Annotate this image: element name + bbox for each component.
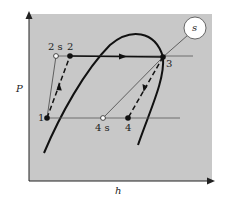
point-2-label: 2 xyxy=(67,41,73,52)
condenser-process-line xyxy=(70,56,163,57)
point-2s-label: 2 s xyxy=(48,41,63,52)
plot-area xyxy=(29,14,212,181)
ph-diagram: P h s 1 2 2 s 3 4 4 s xyxy=(0,0,225,200)
point-1-label: 1 xyxy=(38,112,44,123)
x-axis-label: h xyxy=(115,185,121,196)
point-4s xyxy=(101,116,106,121)
point-4-label: 4 xyxy=(125,122,131,133)
point-2 xyxy=(67,53,73,59)
isentrope-bubble-label: s xyxy=(192,22,197,33)
point-2s xyxy=(54,54,59,59)
point-4 xyxy=(125,115,131,121)
point-1 xyxy=(44,115,50,121)
point-3 xyxy=(160,54,166,60)
y-axis-label: P xyxy=(15,83,23,94)
point-4s-label: 4 s xyxy=(95,122,110,133)
point-3-label: 3 xyxy=(166,58,172,69)
